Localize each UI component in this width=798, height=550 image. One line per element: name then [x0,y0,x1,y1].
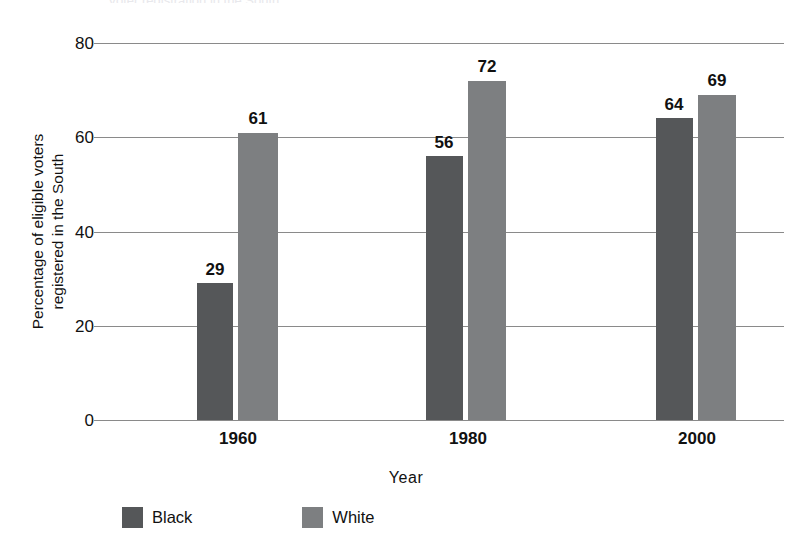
bar-1960-white[interactable] [238,133,278,421]
x-axis-title-text: Year [375,469,424,487]
bar-2000-black[interactable] [656,118,693,420]
legend-label-black: Black [152,509,192,526]
bar-group-2000: 64 69 [568,43,784,420]
legend-swatch-white-icon [302,507,323,528]
bar-value-1980-black: 56 [435,134,454,151]
bar-2000-white[interactable] [698,95,736,420]
cropped-title-remnant: Voter registration in the South [108,0,668,3]
x-axis-baseline [108,420,784,421]
y-tick-label-0: 0 [85,412,94,429]
legend-item-black[interactable]: Black [122,507,192,528]
legend-item-white[interactable]: White [302,507,374,528]
bar-value-1980-white: 72 [478,58,497,75]
y-tick-label-40: 40 [75,223,94,240]
x-tick-label-1980: 1980 [449,430,487,447]
plot-area: 29 61 56 72 64 69 [108,43,784,420]
x-tick-label-1960: 1960 [219,430,257,447]
y-tick-label-20: 20 [75,317,94,334]
chart-legend: Black White [122,507,375,528]
x-tick-label-2000: 2000 [678,430,716,447]
y-axis-tick-labels: 80 60 40 20 0 [52,43,94,420]
y-tick-label-60: 60 [75,129,94,146]
bar-value-2000-black: 64 [665,96,684,113]
bar-group-1960: 29 61 [108,43,338,420]
bar-value-1960-white: 61 [249,110,268,127]
bar-chart: Voter registration in the South Percenta… [0,0,798,550]
legend-label-white: White [332,509,374,526]
legend-swatch-black-icon [122,507,143,528]
bar-value-1960-black: 29 [206,261,225,278]
y-tick-label-80: 80 [75,35,94,52]
bar-value-2000-white: 69 [708,72,727,89]
bar-group-1980: 56 72 [338,43,568,420]
x-axis-title: Year [0,469,798,487]
bar-1960-black[interactable] [197,283,233,420]
bar-1980-white[interactable] [468,81,506,420]
bar-1980-black[interactable] [426,156,463,420]
